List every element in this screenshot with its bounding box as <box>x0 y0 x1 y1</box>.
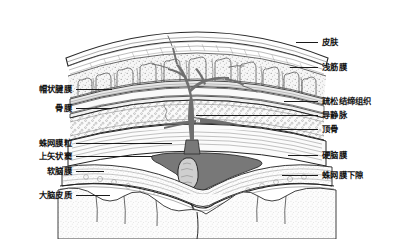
label-pia-mater: 软脑膜 <box>47 167 72 175</box>
label-emissary-vein: 导静脉 <box>322 111 347 119</box>
label-skin: 皮肤 <box>322 38 339 46</box>
label-subarachnoid-space: 蛛网膜下隙 <box>322 171 364 179</box>
label-periosteum: 骨膜 <box>55 104 72 112</box>
label-arachnoid-granulations: 蛛网膜粒 <box>39 139 72 147</box>
label-galea-aponeurotica: 帽状腱膜 <box>39 85 72 93</box>
label-loose-connective-tissue: 疏松结缔组织 <box>322 97 372 105</box>
label-cerebral-cortex: 大脑皮质 <box>39 191 72 199</box>
leader-skin <box>296 42 318 43</box>
leader-superior-sagittal-sinus <box>76 156 152 157</box>
leader-dura-mater <box>288 155 318 156</box>
label-superior-sagittal-sinus: 上矢状窦 <box>39 152 72 160</box>
leader-subarachnoid-space <box>282 175 318 176</box>
leader-superficial-fascia <box>290 67 318 68</box>
leader-pia-mater <box>76 171 104 172</box>
leader-parietal-bone <box>272 129 318 130</box>
label-superficial-fascia: 浅筋膜 <box>322 63 347 71</box>
label-parietal-bone: 顶骨 <box>322 125 339 133</box>
leader-emissary-vein <box>196 115 318 116</box>
leader-loose-connective-tissue <box>284 101 318 102</box>
anatomy-figure: 帽状腱膜 骨膜 蛛网膜粒 上矢状窦 软脑膜 大脑皮质 皮肤 浅筋膜 疏松结缔组织… <box>0 0 394 239</box>
leader-periosteum <box>76 108 112 109</box>
label-dura-mater: 硬脑膜 <box>322 151 347 159</box>
leader-arachnoid-granulations <box>76 143 172 144</box>
leader-galea-aponeurotica <box>76 89 112 90</box>
leader-cerebral-cortex <box>76 195 110 196</box>
